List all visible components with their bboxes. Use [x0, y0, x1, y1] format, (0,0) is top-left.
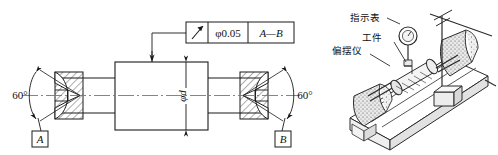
feature-control-leader: [152, 33, 186, 62]
right-angle-label: 60°: [297, 89, 312, 101]
runout-tester-leader: [370, 54, 390, 66]
workpiece-label: 工件: [362, 32, 382, 43]
shaft-outline: [55, 62, 268, 130]
technical-drawing-figure: φ0.05 A—B φd 60° 60°: [0, 0, 498, 155]
workpiece-leader: [394, 42, 406, 62]
feature-control-frame[interactable]: φ0.05 A—B: [186, 22, 294, 43]
datum-feature-a[interactable]: A: [32, 118, 48, 147]
left-angle-label: 60°: [12, 89, 27, 101]
datum-feature-b[interactable]: B: [275, 118, 291, 147]
large-diameter-body: [115, 62, 208, 130]
runout-tester-drawing: [350, 10, 496, 150]
datum-b-label: B: [280, 133, 287, 145]
indicator-leader: [387, 18, 400, 24]
diameter-dimension: φd: [176, 62, 188, 130]
datum-reference-value: A—B: [258, 27, 283, 39]
photo-annotations: 指示表 工件 偏摆仪: [332, 12, 406, 66]
dial-indicator: [399, 27, 417, 74]
runout-tester-illustration-panel: 指示表 工件 偏摆仪: [330, 0, 498, 155]
indicator-label: 指示表: [350, 12, 380, 23]
diameter-dimension-label: φd: [176, 90, 188, 102]
datum-a-label: A: [36, 133, 44, 145]
runout-tester-label: 偏摆仪: [332, 45, 362, 56]
tolerance-value: φ0.05: [215, 27, 241, 39]
engineering-drawing-panel: φ0.05 A—B φd 60° 60°: [0, 0, 330, 155]
